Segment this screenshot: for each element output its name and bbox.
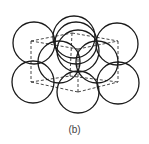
figure-caption: (b): [0, 124, 149, 135]
cube-edges: [31, 33, 118, 92]
cube-edge: [70, 33, 72, 76]
atom-top-right: [96, 23, 138, 65]
atoms: [12, 16, 139, 113]
fcc-unit-cell-diagram: [0, 0, 149, 144]
